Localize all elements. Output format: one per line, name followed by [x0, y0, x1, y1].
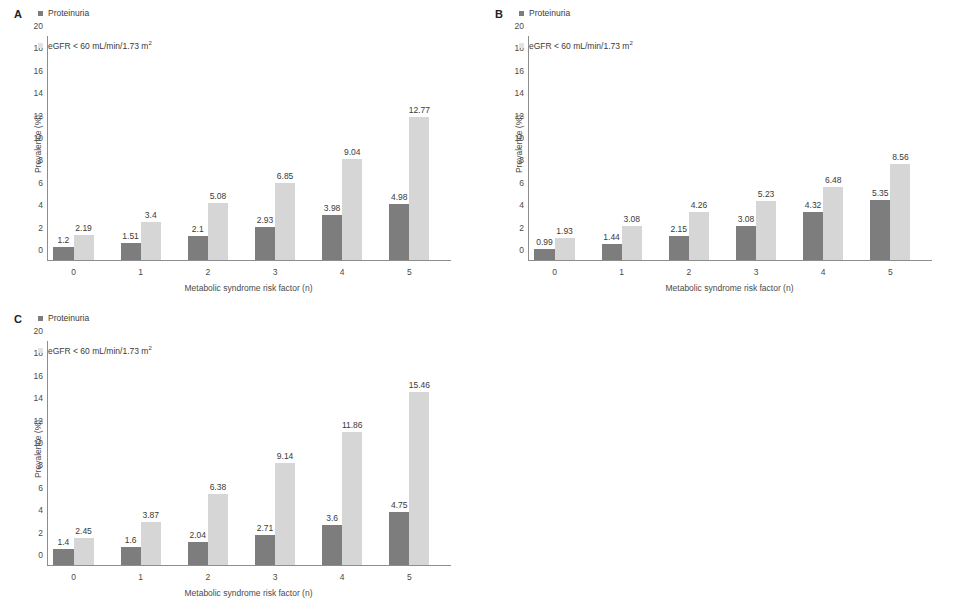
legend-label-egfr-a: eGFR < 60 mL/min/1.73 m2	[48, 40, 152, 51]
bar-value-label-c-proteinuria-5: 4.75	[391, 500, 408, 510]
bar-value-label-a-egfr-3: 6.85	[277, 171, 294, 181]
y-axis-tick-a: 8	[38, 155, 43, 165]
bar-value-label-c-proteinuria-3: 2.71	[257, 523, 274, 533]
legend-swatch-icon-proteinuria-c	[38, 316, 43, 321]
bar-a-proteinuria-2: 2.1	[188, 236, 208, 260]
y-axis-title-wrap-a: Prevalence (%)	[12, 36, 26, 251]
legend-swatch-icon-proteinuria-b	[519, 11, 524, 16]
bar-value-label-b-proteinuria-0: 0.99	[536, 237, 553, 247]
y-axis-tick-c: 14	[34, 393, 43, 403]
y-axis-tick-b: 14	[515, 88, 524, 98]
x-axis-tick-b-4: 4	[821, 267, 826, 277]
bar-b-egfr-3: 5.23	[756, 201, 776, 260]
bar-value-label-c-proteinuria-0: 1.4	[58, 537, 70, 547]
bar-c-egfr-3: 9.14	[275, 463, 295, 565]
y-axis-tick-c: 8	[38, 460, 43, 470]
bar-value-label-c-egfr-1: 3.87	[142, 510, 159, 520]
y-axis-tick-a: 10	[34, 133, 43, 143]
chart-panel-c: C Prevalence (%) 024681012141618201.42.4…	[0, 305, 481, 609]
bar-group-b-3: 3.085.233	[731, 36, 798, 260]
bar-a-proteinuria-4: 3.98	[322, 215, 342, 260]
bar-value-label-a-egfr-0: 2.19	[75, 223, 92, 233]
bar-value-label-a-proteinuria-0: 1.2	[58, 235, 70, 245]
bar-c-egfr-5: 15.46	[409, 392, 429, 565]
bar-value-label-b-proteinuria-3: 3.08	[738, 214, 755, 224]
bar-a-egfr-1: 3.4	[141, 222, 161, 260]
x-axis-title-b: Metabolic syndrome risk factor (n)	[528, 283, 931, 293]
bar-value-label-c-egfr-2: 6.38	[210, 482, 227, 492]
bar-value-label-c-egfr-4: 11.86	[342, 420, 363, 430]
x-axis-tick-a-0: 0	[71, 267, 76, 277]
bar-b-egfr-1: 3.08	[622, 226, 642, 260]
bar-b-egfr-2: 4.26	[689, 212, 709, 260]
bar-c-proteinuria-0: 1.4	[53, 549, 73, 565]
bar-value-label-a-egfr-1: 3.4	[145, 210, 157, 220]
y-axis-tick-c: 10	[34, 438, 43, 448]
bar-group-c-3: 2.719.143	[250, 341, 317, 565]
y-axis-tick-b: 12	[515, 111, 524, 121]
y-axis-tick-b: 0	[519, 245, 524, 255]
bar-value-label-b-egfr-5: 8.56	[892, 152, 909, 162]
y-axis-tick-c: 0	[38, 550, 43, 560]
legend-item-proteinuria-b: Proteinuria	[519, 8, 633, 18]
bar-a-proteinuria-3: 2.93	[255, 227, 275, 260]
y-axis-tick-c: 12	[34, 416, 43, 426]
bar-b-proteinuria-2: 2.15	[669, 236, 689, 260]
bar-value-label-a-egfr-5: 12.77	[409, 105, 430, 115]
legend-label-proteinuria-c: Proteinuria	[48, 313, 89, 323]
x-axis-tick-c-0: 0	[71, 572, 76, 582]
legend-item-egfr-c: eGFR < 60 mL/min/1.73 m2	[38, 345, 152, 356]
bar-value-label-b-egfr-1: 3.08	[623, 214, 640, 224]
x-axis-tick-c-4: 4	[340, 572, 345, 582]
bar-value-label-a-proteinuria-3: 2.93	[257, 215, 274, 225]
bar-a-egfr-4: 9.04	[342, 159, 362, 260]
panel-letter-b: B	[495, 8, 503, 20]
y-axis-tick-b: 4	[519, 200, 524, 210]
bar-value-label-a-egfr-2: 5.08	[210, 191, 227, 201]
bar-group-b-4: 4.326.484	[798, 36, 865, 260]
bar-value-label-c-proteinuria-1: 1.6	[125, 535, 137, 545]
bar-value-label-c-egfr-3: 9.14	[277, 451, 294, 461]
bar-c-proteinuria-4: 3.6	[322, 525, 342, 565]
legend-item-proteinuria-c: Proteinuria	[38, 313, 152, 323]
legend-c: Proteinuria eGFR < 60 mL/min/1.73 m2	[38, 313, 152, 378]
bar-value-label-b-proteinuria-4: 4.32	[805, 200, 822, 210]
x-axis-tick-a-5: 5	[407, 267, 412, 277]
bar-c-proteinuria-3: 2.71	[255, 535, 275, 565]
y-axis-title-wrap-c: Prevalence (%)	[12, 341, 26, 556]
bar-value-label-b-proteinuria-5: 5.35	[872, 188, 889, 198]
y-axis-tick-a: 4	[38, 200, 43, 210]
bar-b-proteinuria-0: 0.99	[534, 249, 554, 260]
bar-value-label-b-egfr-0: 1.93	[556, 226, 573, 236]
bar-group-a-2: 2.15.082	[182, 36, 249, 260]
bar-group-a-4: 3.989.044	[317, 36, 384, 260]
bar-a-egfr-5: 12.77	[409, 117, 429, 260]
bar-a-proteinuria-1: 1.51	[121, 243, 141, 260]
x-axis-tick-b-3: 3	[754, 267, 759, 277]
bar-c-proteinuria-1: 1.6	[121, 547, 141, 565]
bar-value-label-a-egfr-4: 9.04	[344, 147, 361, 157]
bar-c-egfr-0: 2.45	[74, 538, 94, 565]
bar-b-proteinuria-4: 4.32	[803, 212, 823, 260]
legend-swatch-icon-proteinuria-a	[38, 11, 43, 16]
x-axis-title-c: Metabolic syndrome risk factor (n)	[47, 588, 450, 598]
legend-label-egfr-c: eGFR < 60 mL/min/1.73 m2	[48, 345, 152, 356]
bar-b-egfr-5: 8.56	[890, 164, 910, 260]
bar-c-proteinuria-5: 4.75	[389, 512, 409, 565]
bar-value-label-b-egfr-4: 6.48	[825, 175, 842, 185]
bar-a-proteinuria-5: 4.98	[389, 204, 409, 260]
bar-a-egfr-2: 5.08	[208, 203, 228, 260]
legend-swatch-icon-egfr-c	[38, 348, 43, 353]
legend-label-proteinuria-a: Proteinuria	[48, 8, 89, 18]
bar-value-label-b-proteinuria-1: 1.44	[603, 232, 620, 242]
legend-swatch-icon-egfr-a	[38, 43, 43, 48]
x-axis-tick-b-5: 5	[888, 267, 893, 277]
bar-value-label-b-egfr-2: 4.26	[691, 200, 708, 210]
y-axis-tick-a: 6	[38, 178, 43, 188]
legend-item-proteinuria-a: Proteinuria	[38, 8, 152, 18]
bar-b-egfr-0: 1.93	[555, 238, 575, 260]
bar-c-egfr-1: 3.87	[141, 522, 161, 565]
bar-group-a-5: 4.9812.775	[384, 36, 451, 260]
bar-value-label-a-proteinuria-2: 2.1	[192, 224, 204, 234]
x-axis-tick-b-0: 0	[552, 267, 557, 277]
